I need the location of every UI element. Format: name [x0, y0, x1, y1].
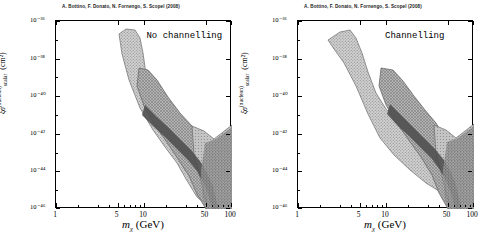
xtick-minor [465, 205, 466, 207]
x-axis-unit: (GeV) [136, 218, 164, 230]
xtick-top [144, 21, 145, 25]
xtick-top [206, 21, 207, 25]
y-axis-superscript: (nucleon) [0, 86, 2, 107]
xtick-minor [454, 205, 455, 207]
xtick-minor [470, 205, 471, 207]
xtick-50 [448, 203, 449, 207]
ytick-minor [56, 115, 58, 116]
xtick-minor [166, 205, 167, 207]
ytick-right [468, 59, 472, 60]
ytick-minor [298, 40, 300, 41]
ytick-major [298, 171, 302, 172]
x-axis-title: mχ (GeV) [55, 218, 231, 233]
x-axis-subscript: χ [130, 225, 133, 233]
ytick-label-44: 10⁻⁴⁴ [272, 166, 287, 174]
xtick-100 [473, 203, 474, 207]
ytick-right [226, 21, 230, 22]
xtick-minor [98, 205, 99, 207]
ytick-right [468, 134, 472, 135]
x-axis-title: mχ (GeV) [297, 218, 473, 233]
ytick-major [298, 96, 302, 97]
xtick-minor [186, 205, 187, 207]
xtick-minor [109, 205, 110, 207]
y-axis-unit: (cm²) [0, 52, 7, 70]
xtick-minor [135, 205, 136, 207]
xtick-5 [360, 203, 361, 207]
xtick-minor [212, 205, 213, 207]
ytick-right [468, 208, 472, 209]
y-axis-symbol: ξσ [240, 107, 249, 114]
xtick-minor [382, 205, 383, 207]
ytick-minor [56, 190, 58, 191]
y-axis-subscript: scalar [244, 74, 250, 87]
xtick-minor [460, 205, 461, 207]
ytick-right [226, 171, 230, 172]
xtick-5 [118, 203, 119, 207]
xtick-top [360, 21, 361, 25]
ytick-minor [298, 190, 300, 191]
ytick-right [226, 59, 230, 60]
ytick-label-36: 10⁻³⁶ [272, 16, 287, 24]
x-axis-symbol: m [122, 218, 130, 230]
ytick-major [56, 171, 60, 172]
y-axis-title: ξσ(nucleon)scalar (cm²) [238, 52, 250, 114]
xtick-minor [366, 205, 367, 207]
y-axis-symbol: ξσ [0, 107, 7, 114]
y-axis-subscript: scalar [2, 74, 8, 87]
x-axis-unit: (GeV) [378, 218, 406, 230]
xtick-minor [408, 205, 409, 207]
ytick-major [56, 96, 60, 97]
xtick-top [231, 21, 232, 25]
xtick-minor [197, 205, 198, 207]
xtick-minor [218, 205, 219, 207]
xtick-50 [206, 203, 207, 207]
ytick-right [468, 171, 472, 172]
xtick-minor [320, 205, 321, 207]
ytick-right [468, 21, 472, 22]
ytick-label-42: 10⁻⁴² [272, 129, 287, 137]
xtick-100 [231, 203, 232, 207]
xtick-top [448, 21, 449, 25]
ytick-right [226, 208, 230, 209]
xtick-minor [340, 205, 341, 207]
ytick-major [298, 134, 302, 135]
plot-area-right: Channelling [297, 20, 473, 208]
xtick-minor [428, 205, 429, 207]
panel-no-channelling: A. Bottino, F. Donato, N. Fornengo, S. S… [0, 0, 242, 243]
plot-area-left: No channelling [55, 20, 231, 208]
xtick-10 [386, 203, 387, 207]
xtick-minor [78, 205, 79, 207]
figure-container: A. Bottino, F. Donato, N. Fornengo, S. S… [0, 0, 484, 243]
ytick-minor [298, 77, 300, 78]
ytick-major [298, 21, 302, 22]
x-axis-symbol: m [364, 218, 372, 230]
xtick-top [386, 21, 387, 25]
ytick-label-44: 10⁻⁴⁴ [30, 166, 45, 174]
xtick-minor [372, 205, 373, 207]
data-regions-right [298, 21, 474, 209]
panel-channelling: A. Bottino, F. Donato, N. Fornengo, S. S… [242, 0, 484, 243]
data-regions-left [56, 21, 232, 209]
ytick-minor [56, 77, 58, 78]
xtick-minor [377, 205, 378, 207]
ytick-minor [298, 153, 300, 154]
ytick-major [56, 21, 60, 22]
xtick-minor [439, 205, 440, 207]
xtick-top [118, 21, 119, 25]
y-axis-superscript: (nucleon) [238, 86, 244, 107]
ytick-right [468, 96, 472, 97]
xtick-10 [144, 203, 145, 207]
ytick-label-46: 10⁻⁴⁶ [272, 203, 287, 211]
ytick-right [226, 96, 230, 97]
xtick-minor [351, 205, 352, 207]
credit-line: A. Bottino, F. Donato, N. Fornengo, S. S… [0, 4, 242, 9]
ytick-major [56, 59, 60, 60]
ytick-label-46: 10⁻⁴⁶ [30, 203, 45, 211]
ytick-label-42: 10⁻⁴² [30, 129, 45, 137]
xtick-minor [223, 205, 224, 207]
ytick-label-38: 10⁻³⁸ [272, 54, 287, 62]
ytick-right [226, 134, 230, 135]
xtick-1 [298, 203, 299, 207]
ytick-minor [56, 40, 58, 41]
ytick-major [56, 134, 60, 135]
